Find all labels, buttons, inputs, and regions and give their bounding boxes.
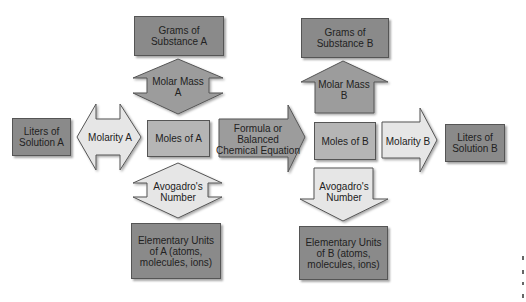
page-edge-mark bbox=[522, 270, 524, 274]
node-grams-of-substance-a: Grams of Substance A bbox=[134, 16, 224, 56]
page-edge-mark bbox=[522, 256, 524, 260]
node-elementary-units-of-a: Elementary Units of A (atoms, molecules,… bbox=[131, 223, 221, 279]
connector-label-molarity-b: Molarity B bbox=[382, 134, 434, 148]
connector-label-avogadro-a: Avogadro's Number bbox=[148, 180, 208, 204]
node-moles-of-a: Moles of A bbox=[147, 120, 210, 157]
connector-label-molar-mass-b: Molar Mass B bbox=[318, 78, 370, 102]
node-label: Elementary Units of A (atoms, molecules,… bbox=[135, 235, 217, 268]
page-edge-mark bbox=[522, 282, 524, 285]
node-label: Liters of Solution A bbox=[17, 126, 67, 148]
node-label: Moles of A bbox=[155, 133, 202, 144]
page-edge-mark bbox=[522, 294, 524, 298]
connector-label-molar-mass-a: Molar Mass A bbox=[150, 76, 206, 98]
connector-label-avogadro-b: Avogadro's Number bbox=[314, 180, 374, 204]
stoichiometry-flow-diagram: Grams of Substance A Grams of Substance … bbox=[0, 0, 526, 302]
node-grams-of-substance-b: Grams of Substance B bbox=[301, 18, 389, 58]
node-label: Moles of B bbox=[321, 136, 368, 147]
connector-label-molarity-a: Molarity A bbox=[82, 130, 138, 144]
node-liters-of-solution-b: Liters of Solution B bbox=[445, 124, 505, 162]
node-label: Liters of Solution B bbox=[450, 132, 500, 154]
node-label: Grams of Substance B bbox=[310, 27, 380, 49]
connector-label-formula: Formula or Balanced Chemical Equation bbox=[216, 122, 300, 156]
node-label: Elementary Units of B (atoms, molecules,… bbox=[303, 237, 385, 270]
node-label: Grams of Substance A bbox=[144, 25, 214, 47]
node-liters-of-solution-a: Liters of Solution A bbox=[12, 118, 71, 156]
node-elementary-units-of-b: Elementary Units of B (atoms, molecules,… bbox=[299, 226, 388, 280]
node-moles-of-b: Moles of B bbox=[314, 122, 376, 160]
